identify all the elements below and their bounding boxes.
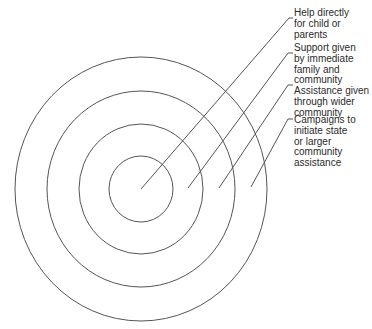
leader-line (141, 18, 293, 189)
leader-line (251, 119, 293, 187)
leader-line (219, 85, 293, 188)
leader-lines-group (141, 18, 293, 189)
label-help-directly: Help directly for child or parents (294, 8, 372, 40)
label-campaigns-state-assistance: Campaigns to initiate state or larger co… (294, 115, 372, 169)
leader-line (188, 53, 293, 188)
label-support-immediate-family: Support given by immediate family and co… (294, 43, 372, 86)
